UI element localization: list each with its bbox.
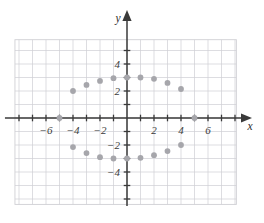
data-point xyxy=(97,78,103,84)
x-axis-label: x xyxy=(246,120,253,132)
data-point xyxy=(70,88,76,94)
data-point xyxy=(111,156,117,162)
y-tick-label: 2 xyxy=(115,85,121,97)
data-point xyxy=(192,115,198,121)
data-point xyxy=(165,80,171,86)
data-point xyxy=(84,82,90,88)
x-tick-label: −4 xyxy=(67,124,80,136)
x-tick-label: −2 xyxy=(94,124,107,136)
data-point xyxy=(178,86,184,92)
data-point xyxy=(124,156,130,162)
data-point xyxy=(84,150,90,156)
y-tick-label: −4 xyxy=(107,166,120,178)
coordinate-plane-svg: −6−4−224642−2−4 x y xyxy=(0,0,264,223)
data-point xyxy=(178,142,184,148)
y-tick-label: 4 xyxy=(115,58,121,70)
x-tick-label: 6 xyxy=(205,124,211,136)
data-point xyxy=(70,144,76,150)
scatter-plot-figure: −6−4−224642−2−4 x y xyxy=(0,0,264,223)
data-point xyxy=(138,75,144,81)
x-tick-label: 4 xyxy=(178,124,184,136)
data-point xyxy=(57,115,63,121)
x-tick-label: −6 xyxy=(40,124,53,136)
data-point xyxy=(165,148,171,154)
data-point xyxy=(111,75,117,81)
x-tick-label: 2 xyxy=(151,124,157,136)
data-point xyxy=(97,154,103,160)
data-point xyxy=(151,76,157,82)
y-tick-label: −2 xyxy=(107,139,120,151)
data-point xyxy=(138,155,144,161)
data-point xyxy=(124,75,130,81)
y-axis-label: y xyxy=(114,12,121,25)
data-point xyxy=(151,152,157,158)
